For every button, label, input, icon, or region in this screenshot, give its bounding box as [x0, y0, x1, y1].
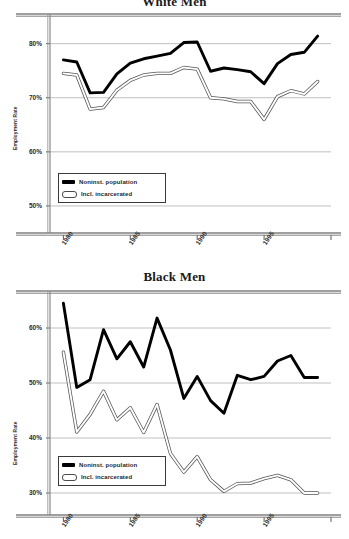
plot-svg-white-men	[0, 0, 349, 265]
legend-swatch-noninst-icon	[62, 180, 75, 184]
legend-swatch-noninst-icon	[62, 463, 75, 467]
y-tick-label: 70%	[16, 94, 42, 101]
legend-item-incarcerated: Incl. incarcerated	[62, 471, 161, 483]
y-tick-label: 60%	[16, 148, 42, 155]
y-tick-label: 50%	[16, 202, 42, 209]
plot-area-white-men	[0, 0, 349, 265]
legend-item-incarcerated: Incl. incarcerated	[62, 188, 161, 200]
y-axis-label-white-men: Employment Rate	[12, 106, 18, 150]
legend-item-noninst: Noninst. population	[62, 176, 161, 188]
plot-area-black-men	[0, 265, 349, 539]
plot-svg-black-men	[0, 265, 349, 539]
legend-swatch-incarcerated-icon	[62, 474, 77, 481]
legend-label-noninst: Noninst. population	[79, 179, 137, 185]
y-tick-label: 40%	[16, 434, 42, 441]
chart-panel-black-men: Black Men Employment Rate Noninst. popul…	[0, 265, 349, 539]
legend-label-noninst: Noninst. population	[79, 462, 137, 468]
legend-item-noninst: Noninst. population	[62, 459, 161, 471]
y-tick-label: 80%	[16, 40, 42, 47]
y-tick-label: 30%	[16, 489, 42, 496]
legend-label-incarcerated: Incl. incarcerated	[81, 191, 132, 197]
y-tick-label: 50%	[16, 379, 42, 386]
y-axis-label-black-men: Employment Rate	[12, 421, 18, 465]
legend-black-men: Noninst. population Incl. incarcerated	[58, 456, 166, 486]
legend-label-incarcerated: Incl. incarcerated	[81, 474, 132, 480]
chart-panel-white-men: White Men Employment Rate Noninst. popul…	[0, 0, 349, 265]
y-tick-label: 60%	[16, 324, 42, 331]
legend-swatch-incarcerated-icon	[62, 191, 77, 198]
legend-white-men: Noninst. population Incl. incarcerated	[58, 173, 166, 203]
